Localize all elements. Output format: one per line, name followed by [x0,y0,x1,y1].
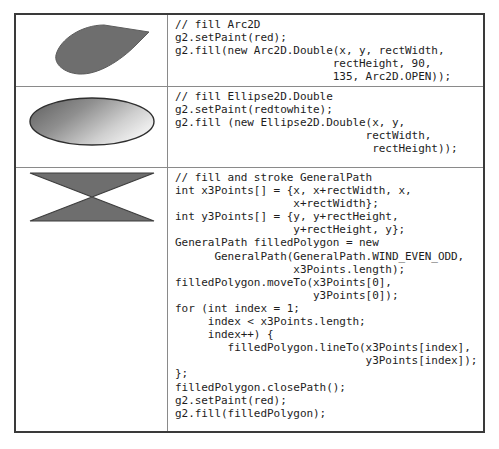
ellipse2d-gradient-icon [16,87,168,167]
table-row: // fill and stroke GeneralPath int x3Poi… [16,168,483,431]
generalpath-figure-cell [16,168,168,431]
generalpath-code-cell: // fill and stroke GeneralPath int x3Poi… [168,168,483,431]
table-row: // fill Arc2D g2.setPaint(red); g2.fill(… [16,15,483,87]
ellipse2d-code-text: // fill Ellipse2D.Double g2.setPaint(red… [175,90,479,155]
generalpath-code-text: // fill and stroke GeneralPath int x3Poi… [175,171,479,420]
arc2d-code-text: // fill Arc2D g2.setPaint(red); g2.fill(… [175,18,479,83]
arc2d-open-wedge-icon [16,15,168,86]
arc2d-code-cell: // fill Arc2D g2.setPaint(red); g2.fill(… [168,15,483,86]
arc2d-figure-cell [16,15,168,86]
generalpath-bowtie-icon [16,168,168,430]
table-row: // fill Ellipse2D.Double g2.setPaint(red… [16,87,483,168]
figure-table: // fill Arc2D g2.setPaint(red); g2.fill(… [14,13,485,433]
ellipse2d-code-cell: // fill Ellipse2D.Double g2.setPaint(red… [168,87,483,167]
ellipse2d-figure-cell [16,87,168,167]
